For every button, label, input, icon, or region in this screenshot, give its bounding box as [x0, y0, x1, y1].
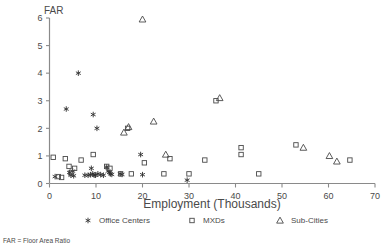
point-office-center — [140, 172, 145, 178]
x-axis-title: Employment (Thousands) — [143, 197, 280, 211]
point-sub-city — [121, 129, 128, 135]
y-tick-label: 1 — [37, 151, 42, 161]
point-office-center — [185, 177, 190, 183]
point-office-center — [82, 172, 87, 178]
point-sub-city — [125, 124, 132, 130]
point-sub-city — [139, 16, 146, 22]
point-mxd — [162, 172, 166, 176]
point-mxd — [51, 155, 55, 159]
point-mxd — [239, 145, 243, 149]
y-tick-label: 0 — [37, 179, 42, 189]
point-sub-city — [150, 118, 157, 124]
point-mxd — [63, 156, 67, 160]
point-office-center — [64, 106, 69, 112]
point-mxd — [187, 172, 191, 176]
x-tick-label: 60 — [323, 191, 333, 201]
point-mxd — [239, 152, 243, 156]
y-tick-label: 4 — [37, 68, 42, 78]
point-office-center — [91, 112, 96, 118]
point-mxd — [203, 158, 207, 162]
legend-label: Office Centers — [99, 216, 150, 225]
point-mxd — [257, 172, 261, 176]
series-mxds — [51, 99, 352, 180]
point-sub-city — [162, 151, 169, 157]
legend-marker-triangle — [277, 217, 284, 223]
point-mxd — [294, 143, 298, 147]
point-mxd — [91, 152, 95, 156]
point-mxd — [142, 161, 146, 165]
point-sub-city — [326, 153, 333, 159]
legend-label: MXDs — [203, 216, 225, 225]
far-vs-employment-scatter-plot: FAR 0123456 010203040506070 Employment (… — [0, 0, 387, 251]
x-tick-label: 70 — [370, 191, 380, 201]
y-axis-title: FAR — [44, 5, 63, 16]
point-mxd — [129, 172, 133, 176]
point-mxd — [348, 158, 352, 162]
point-office-center — [76, 70, 81, 76]
legend-label: Sub-Cities — [291, 216, 328, 225]
y-axis-ticks: 0123456 — [37, 13, 49, 189]
legend-marker-asterisk — [86, 218, 91, 224]
legend-marker-square — [190, 218, 194, 222]
y-tick-label: 2 — [37, 124, 42, 134]
x-tick-label: 0 — [47, 191, 52, 201]
footnote-text: FAR = Floor Area Ratio — [3, 237, 70, 244]
point-sub-city — [334, 158, 341, 164]
point-sub-city — [300, 144, 307, 150]
y-tick-label: 6 — [37, 13, 42, 23]
x-tick-label: 10 — [91, 191, 101, 201]
point-office-center — [138, 152, 143, 158]
y-tick-label: 3 — [37, 96, 42, 106]
point-mxd — [79, 158, 83, 162]
point-office-center — [89, 166, 94, 172]
scatter-plot-figure: FAR 0123456 010203040506070 Employment (… — [0, 0, 387, 251]
chart-legend: Office CentersMXDsSub-Cities — [86, 216, 328, 225]
y-tick-label: 5 — [37, 41, 42, 51]
series-sub-cities — [121, 16, 341, 164]
point-mxd — [67, 164, 71, 168]
point-sub-city — [216, 95, 223, 101]
point-office-center — [95, 126, 100, 132]
